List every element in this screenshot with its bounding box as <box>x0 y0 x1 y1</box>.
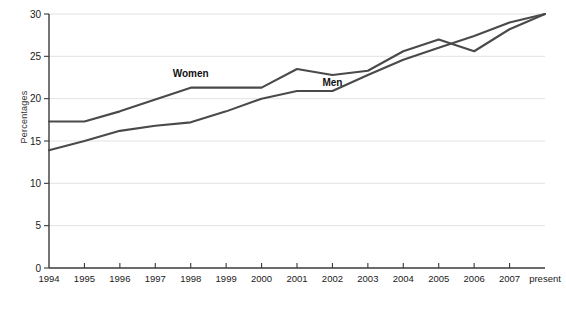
series-label-men: Men <box>322 77 342 88</box>
y-tick-label: 5 <box>35 220 41 231</box>
x-tick-label: 1996 <box>109 273 130 284</box>
plot-area: 051015202530 199419951996199719981999200… <box>0 0 566 310</box>
x-axis-ticks: 1994199519961997199819992000200120022003… <box>38 263 561 284</box>
x-tick-label: 2002 <box>322 273 343 284</box>
x-tick-label: present <box>529 273 561 284</box>
series-label-women: Women <box>173 68 209 79</box>
x-tick-label: 1999 <box>216 273 237 284</box>
data-series <box>49 14 545 150</box>
x-tick-label: 1997 <box>145 273 166 284</box>
x-tick-label: 2003 <box>357 273 378 284</box>
x-tick-label: 2007 <box>499 273 520 284</box>
series-annotations: WomenMen <box>173 68 343 88</box>
y-tick-label: 10 <box>30 178 42 189</box>
x-tick-label: 2001 <box>286 273 307 284</box>
series-line-women <box>49 14 545 122</box>
y-tick-label: 25 <box>30 51 42 62</box>
y-tick-label: 15 <box>30 136 42 147</box>
x-tick-label: 1998 <box>180 273 201 284</box>
series-line-men <box>49 14 545 150</box>
x-tick-label: 2005 <box>428 273 449 284</box>
y-tick-label: 0 <box>35 263 41 274</box>
line-chart: Percentages 051015202530 199419951996199… <box>0 0 566 310</box>
x-tick-label: 1994 <box>38 273 59 284</box>
x-tick-label: 1995 <box>74 273 95 284</box>
gridlines <box>49 14 545 226</box>
y-tick-label: 30 <box>30 9 42 20</box>
x-tick-label: 2006 <box>464 273 485 284</box>
x-tick-label: 2000 <box>251 273 272 284</box>
y-tick-label: 20 <box>30 93 42 104</box>
x-tick-label: 2004 <box>393 273 414 284</box>
y-axis-ticks: 051015202530 <box>30 9 49 274</box>
